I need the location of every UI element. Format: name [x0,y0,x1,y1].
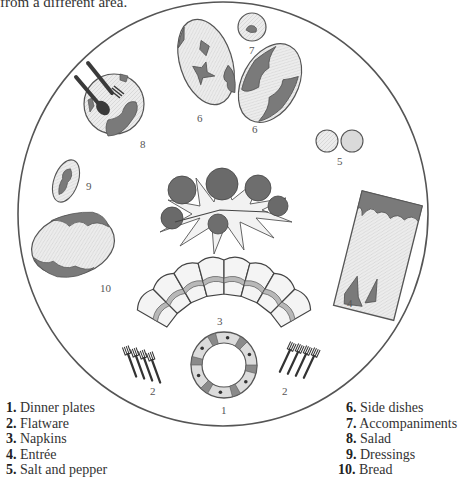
napkins-fan [137,257,310,327]
label-flatware-left: 2 [150,385,156,397]
bread-basket [25,205,121,285]
fork-icon [277,341,296,373]
accompaniments-bowl [238,13,266,41]
legend-right: 6. Side dishes 7. Accompaniments 8. Sala… [338,400,457,478]
plate-rim-dot [226,336,230,340]
label-dressings: 9 [86,180,92,192]
salad-bowl [76,63,144,136]
legend-item: 8. Salad [338,431,457,447]
plate-rim-dot [248,353,252,357]
plate-rim-dot [244,380,248,384]
label-salt-pepper: 5 [337,155,343,167]
dressings-dish [47,156,85,206]
legend-item: 3. Napkins [6,431,107,447]
dinner-plates [191,332,257,398]
label-side-dish-right: 6 [252,123,258,135]
fork-icon [146,351,163,383]
flatware-left [122,345,163,383]
label-accompaniments: 7 [249,44,255,56]
plate-rim-dot [200,346,204,350]
label-dinner-plates: 1 [221,404,227,416]
legend-left: 1. Dinner plates 2. Flatware 3. Napkins … [6,400,107,478]
salt-and-pepper [316,130,363,152]
label-flatware-right: 2 [282,385,288,397]
legend-item: 9. Dressings [338,447,457,463]
legend-item: 1. Dinner plates [6,400,107,416]
legend-item: 5. Salt and pepper [6,462,107,478]
label-salad: 8 [140,138,146,150]
side-dish-left [168,12,245,112]
plate-rim-dot [219,390,223,394]
legend-item: 6. Side dishes [338,400,457,416]
centerpiece-flowers [160,168,292,254]
label-bread: 10 [100,282,112,294]
legend-item: 10. Bread [338,462,457,478]
side-dish-right [226,33,315,133]
label-side-dish-left: 6 [197,112,203,124]
plate-rim-dot [197,374,201,378]
legend-item: 7. Accompaniments [338,416,457,432]
legend-item: 4. Entrée [6,447,107,463]
label-entree: 4 [347,297,353,309]
legend-item: 2. Flatware [6,416,107,432]
label-napkins: 3 [217,315,223,327]
flatware-right [277,341,320,379]
